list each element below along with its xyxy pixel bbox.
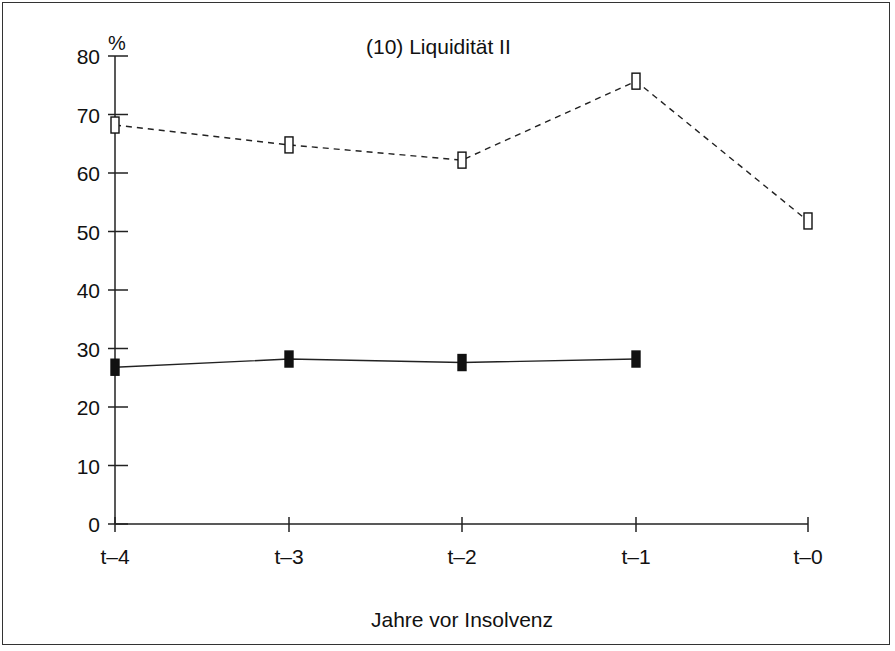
data-point-marker xyxy=(285,137,293,153)
y-tick-label: 60 xyxy=(77,162,100,185)
data-point-marker xyxy=(458,355,466,371)
data-point-marker xyxy=(804,213,812,229)
x-axis: t–4t–3t–2t–1t–0 xyxy=(100,517,822,568)
y-tick-label: 30 xyxy=(77,338,100,361)
data-point-marker xyxy=(111,117,119,133)
x-tick-label: t–0 xyxy=(793,545,822,568)
x-axis-label: Jahre vor Insolvenz xyxy=(371,608,553,631)
series-open-dashed xyxy=(111,73,812,229)
y-tick-label: 40 xyxy=(77,279,100,302)
y-tick-label: 80 xyxy=(77,45,100,68)
data-point-marker xyxy=(632,351,640,367)
chart-canvas: (10) Liquidität II % 01020304050607080 t… xyxy=(0,0,895,651)
data-point-marker xyxy=(632,73,640,89)
x-tick-label: t–2 xyxy=(447,545,476,568)
chart-title: (10) Liquidität II xyxy=(366,35,511,58)
data-point-marker xyxy=(285,351,293,367)
data-point-marker xyxy=(458,152,466,168)
x-tick-label: t–4 xyxy=(100,545,130,568)
y-tick-label: 20 xyxy=(77,396,100,419)
data-point-marker xyxy=(111,359,119,375)
x-tick-label: t–1 xyxy=(621,545,650,568)
y-axis: 01020304050607080 xyxy=(77,45,128,536)
x-tick-label: t–3 xyxy=(274,545,303,568)
y-tick-label: 70 xyxy=(77,104,100,127)
y-tick-label: 10 xyxy=(77,455,100,478)
y-unit-label: % xyxy=(108,32,126,54)
y-tick-label: 0 xyxy=(88,513,100,536)
y-tick-label: 50 xyxy=(77,221,100,244)
series-filled-solid xyxy=(111,351,640,375)
